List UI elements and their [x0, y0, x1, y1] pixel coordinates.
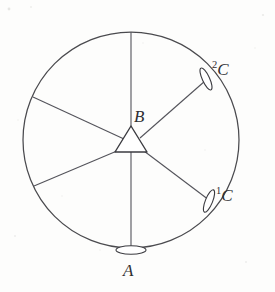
label-target-c1: 1C: [216, 186, 233, 204]
survey-diagram-figure: B A 1C 2C: [0, 0, 275, 292]
diagram-canvas: [0, 0, 275, 292]
label-c2-base: C: [217, 60, 228, 79]
target-marker-c1: [201, 189, 217, 214]
label-c1-base: C: [221, 186, 232, 205]
target-marker-a: [116, 246, 146, 254]
label-station-b: B: [134, 108, 144, 125]
sight-lines-group: [33, 32, 209, 249]
station-triangle-b: [115, 126, 147, 152]
ray-upper-right: [140, 81, 205, 138]
ray-lower-right: [140, 148, 209, 200]
ray-upper-left: [33, 97, 124, 139]
label-target-a: A: [123, 262, 133, 279]
label-target-c2: 2C: [212, 60, 229, 78]
ray-lower-left: [34, 148, 124, 186]
